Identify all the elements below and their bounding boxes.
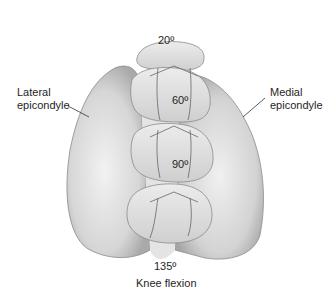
patella-90 xyxy=(131,123,213,182)
caption-knee-flexion: Knee flexion xyxy=(136,277,197,290)
patella-60 xyxy=(131,68,211,123)
angle-90-label: 90º xyxy=(172,158,188,170)
medial-epicondyle-label: Medial epicondyle xyxy=(270,86,323,112)
angle-135-label: 135º xyxy=(154,260,176,272)
patella-135 xyxy=(127,184,212,243)
angle-20-label: 20º xyxy=(158,34,174,46)
medial-leader-line xyxy=(243,98,265,117)
lateral-epicondyle-label: Lateral epicondyle xyxy=(17,86,70,112)
angle-60-label: 60º xyxy=(172,94,188,106)
knee-diagram: 20º 60º 90º 135º Lateral epicondyle Medi… xyxy=(0,0,332,301)
